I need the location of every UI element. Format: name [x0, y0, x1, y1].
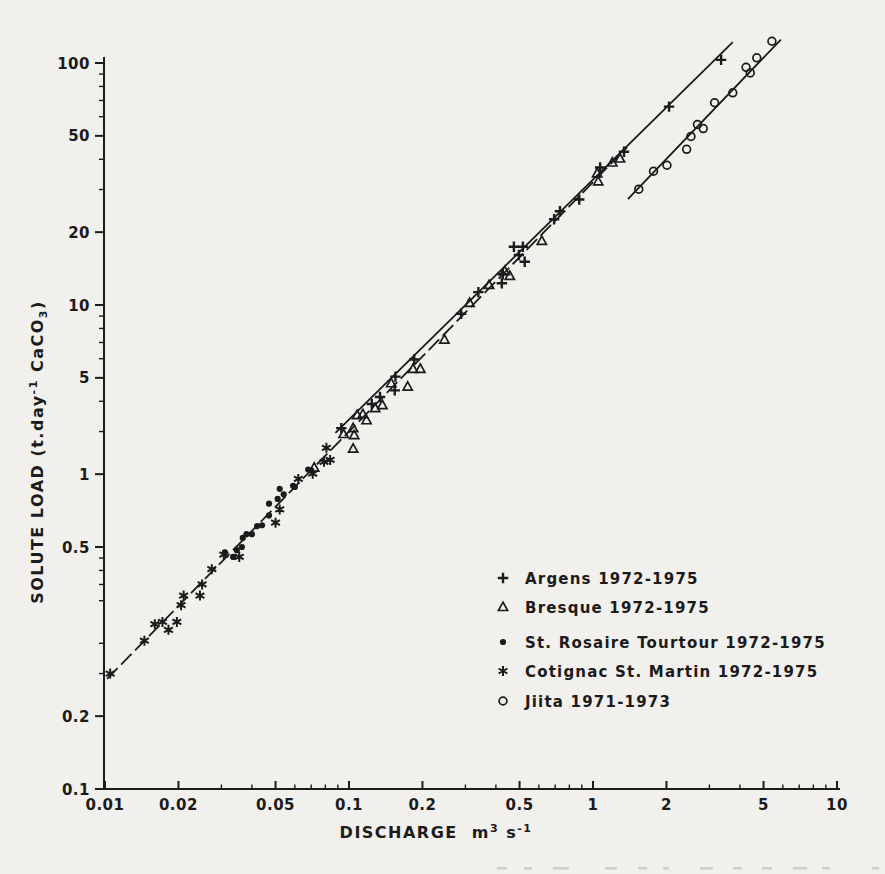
jiita-point [753, 54, 761, 62]
x-tick-label: 0.01 [85, 796, 124, 814]
scan-artifact-mark [524, 867, 532, 870]
legend-label: Argens 1972-1975 [525, 570, 699, 588]
argens-point [409, 354, 419, 364]
scan-artifact-mark [762, 867, 772, 870]
y-tick-label: 0.1 [62, 781, 90, 799]
scan-artifact [497, 867, 879, 870]
bresque-point [403, 382, 412, 390]
cotignac-st-martin-point [196, 591, 205, 601]
y-tick-label: 0.5 [62, 539, 90, 557]
st-rosaire-tourtour-point [239, 544, 245, 550]
legend-item-jiita: Jiita 1971-1973 [499, 693, 671, 711]
legend-marker-argens [498, 573, 508, 583]
bresque-point [349, 444, 358, 452]
legend-label: Jiita 1971-1973 [524, 693, 671, 711]
argens-point [509, 242, 519, 252]
x-tick-label: 0.05 [256, 796, 295, 814]
st-rosaire-tourtour-point [249, 531, 255, 537]
scan-artifact-mark [638, 867, 647, 870]
series-bresque [310, 154, 625, 471]
bresque-point [440, 335, 449, 343]
legend-marker-jiita [499, 697, 507, 705]
scan-artifact-mark [605, 867, 617, 870]
argens-point [549, 214, 559, 224]
st-rosaire-tourtour-point [266, 512, 272, 518]
legend-item-cotignac-st-martin: Cotignac St. Martin 1972-1975 [499, 663, 819, 681]
jiita-point [699, 125, 707, 133]
x-tick-label: 5 [758, 796, 769, 814]
st-rosaire-tourtour-point [292, 484, 298, 490]
y-tick-label: 10 [68, 297, 90, 315]
scan-artifact-mark [822, 867, 830, 870]
y-tick-label: 0.2 [62, 708, 90, 726]
st-rosaire-tourtour-point [266, 501, 272, 507]
jiita-point [711, 99, 719, 107]
scan-artifact-mark [793, 867, 807, 870]
x-tick-label: 0.5 [506, 796, 534, 814]
x-tick-label: 2 [661, 796, 672, 814]
x-tick-label: 0.1 [335, 796, 363, 814]
jiita-point [683, 145, 691, 153]
x-tick-label: 1 [588, 796, 599, 814]
x-tick-label: 10 [826, 796, 848, 814]
scan-artifact-mark [497, 867, 507, 870]
st-rosaire-tourtour-point [243, 531, 249, 537]
cotignac-st-martin-point [179, 591, 188, 601]
scan-artifact-mark [733, 867, 742, 870]
st-rosaire-tourtour-point [275, 496, 281, 502]
solute-load-vs-discharge-chart: 0.010.020.050.10.20.512510100502010510.5… [0, 0, 885, 874]
argens-point [456, 309, 466, 319]
y-tick-label: 50 [68, 127, 90, 145]
cotignac-st-martin-point [271, 518, 280, 528]
legend-item-argens: Argens 1972-1975 [498, 570, 699, 588]
series-cotignac-st-martin [106, 443, 335, 679]
legend-marker-cotignac-st-martin [499, 666, 508, 676]
cotignac-st-martin-point [322, 443, 331, 453]
st-rosaire-tourtour-point [277, 486, 283, 492]
x-tick-label: 0.02 [159, 796, 198, 814]
legend: Argens 1972-1975Bresque 1972-1975St. Ros… [498, 570, 826, 711]
y-tick-label: 20 [68, 224, 90, 242]
scan-artifact-mark [872, 867, 879, 870]
x-axis-title: DISCHARGEm3 s-1 [340, 822, 533, 842]
x-tick-label: 0.2 [408, 796, 436, 814]
scanned-figure-page: 0.010.020.050.10.20.512510100502010510.5… [0, 0, 885, 874]
st-rosaire-tourtour-point [281, 491, 287, 497]
y-tick-label: 5 [79, 369, 90, 387]
cotignac-st-martin-point [164, 625, 173, 635]
y-axis-title: SOLUTE LOAD (t.day-1 CaCO3) [27, 300, 50, 604]
bresque-point [537, 236, 546, 244]
scan-artifact-mark [700, 867, 713, 870]
legend-marker-bresque [498, 602, 507, 610]
scan-artifact-mark [663, 867, 669, 870]
cotignac-st-martin-point [172, 617, 181, 627]
legend-label: Cotignac St. Martin 1972-1975 [525, 663, 818, 681]
y-tick-label: 1 [79, 466, 90, 484]
argens-point [664, 101, 674, 111]
jiita-point [746, 69, 754, 77]
y-tick-label: 100 [57, 55, 90, 73]
legend-item-st-rosaire-tourtour: St. Rosaire Tourtour 1972-1975 [500, 634, 826, 652]
legend-label: Bresque 1972-1975 [525, 599, 710, 617]
jiita-point [663, 161, 671, 169]
legend-marker-st-rosaire-tourtour [500, 639, 506, 645]
st-rosaire-tourtour-point [259, 522, 265, 528]
bresque-point [416, 364, 425, 372]
legend-item-bresque: Bresque 1972-1975 [498, 599, 709, 617]
cotignac-st-martin-point [294, 474, 303, 484]
argens-point [520, 256, 530, 266]
jiita-point [768, 37, 776, 45]
scan-artifact-mark [553, 867, 569, 870]
legend-label: St. Rosaire Tourtour 1972-1975 [525, 634, 826, 652]
